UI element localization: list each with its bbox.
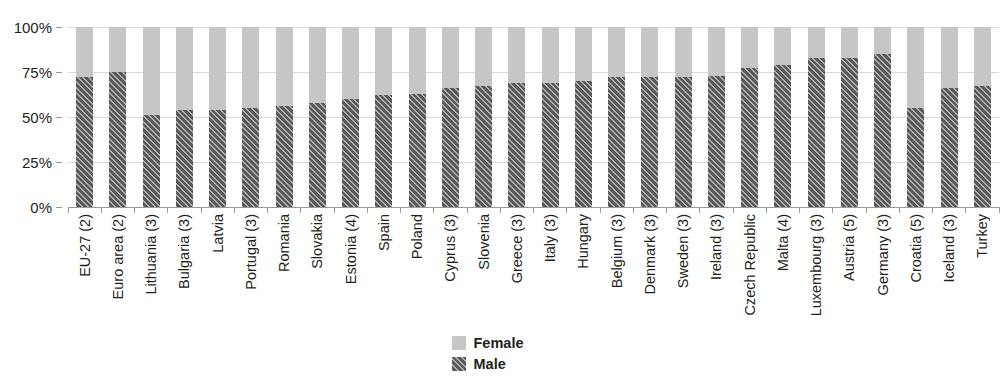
bar-stack[interactable]: [276, 27, 293, 207]
bar-segment-male[interactable]: [109, 72, 126, 207]
bar-segment-female[interactable]: [342, 27, 359, 99]
legend-item-female[interactable]: Female: [452, 336, 556, 351]
bar-segment-male[interactable]: [76, 77, 93, 207]
legend-item-male[interactable]: Male: [452, 357, 556, 372]
bar-segment-female[interactable]: [974, 27, 991, 86]
bar-segment-male[interactable]: [143, 115, 160, 207]
bar-segment-female[interactable]: [176, 27, 193, 110]
bar-segment-male[interactable]: [907, 108, 924, 207]
x-axis-tick-mark: [334, 207, 335, 213]
bar-segment-male[interactable]: [242, 108, 259, 207]
bar-stack[interactable]: [708, 27, 725, 207]
bar-segment-female[interactable]: [641, 27, 658, 77]
bar-segment-male[interactable]: [675, 77, 692, 207]
bar-segment-female[interactable]: [841, 27, 858, 58]
bar-segment-male[interactable]: [342, 99, 359, 207]
bar-segment-male[interactable]: [508, 83, 525, 207]
bar-segment-female[interactable]: [575, 27, 592, 81]
bar-segment-male[interactable]: [475, 86, 492, 207]
bar-segment-male[interactable]: [941, 88, 958, 207]
bar-stack[interactable]: [941, 27, 958, 207]
bar-segment-male[interactable]: [309, 103, 326, 207]
bar-segment-male[interactable]: [608, 77, 625, 207]
bar-stack[interactable]: [442, 27, 459, 207]
bar-stack[interactable]: [608, 27, 625, 207]
x-axis-category-label: Italy (3): [543, 214, 558, 262]
x-axis-tick-mark: [832, 207, 833, 213]
bar-stack[interactable]: [242, 27, 259, 207]
bar-segment-female[interactable]: [442, 27, 459, 88]
bar-stack[interactable]: [907, 27, 924, 207]
bar-stack[interactable]: [808, 27, 825, 207]
bar-segment-male[interactable]: [542, 83, 559, 207]
bar-slot: [367, 27, 400, 207]
bar-stack[interactable]: [974, 27, 991, 207]
bar-segment-male[interactable]: [841, 58, 858, 207]
bar-stack[interactable]: [375, 27, 392, 207]
bar-stack[interactable]: [508, 27, 525, 207]
bar-segment-male[interactable]: [641, 77, 658, 207]
bar-segment-male[interactable]: [808, 58, 825, 207]
bar-segment-female[interactable]: [774, 27, 791, 65]
bar-segment-female[interactable]: [475, 27, 492, 86]
bar-segment-female[interactable]: [375, 27, 392, 95]
bar-stack[interactable]: [575, 27, 592, 207]
bar-segment-female[interactable]: [708, 27, 725, 76]
bar-segment-male[interactable]: [176, 110, 193, 207]
x-axis-label-slot: Croatia (5): [899, 214, 932, 334]
bar-segment-male[interactable]: [974, 86, 991, 207]
bar-stack[interactable]: [675, 27, 692, 207]
bar-segment-female[interactable]: [276, 27, 293, 106]
bar-slot: [667, 27, 700, 207]
bar-stack[interactable]: [741, 27, 758, 207]
bar-segment-male[interactable]: [874, 54, 891, 207]
x-axis-category-label: Bulgaria (3): [177, 214, 192, 289]
bar-segment-female[interactable]: [907, 27, 924, 108]
bar-segment-female[interactable]: [608, 27, 625, 77]
x-axis-label-slot: Lithuania (3): [135, 214, 168, 334]
bar-segment-female[interactable]: [76, 27, 93, 77]
x-axis-label-slot: Luxembourg (3): [800, 214, 833, 334]
bar-segment-female[interactable]: [309, 27, 326, 103]
bar-stack[interactable]: [874, 27, 891, 207]
bar-segment-male[interactable]: [409, 94, 426, 207]
bar-stack[interactable]: [76, 27, 93, 207]
bar-segment-female[interactable]: [741, 27, 758, 68]
bar-segment-female[interactable]: [109, 27, 126, 72]
bar-stack[interactable]: [342, 27, 359, 207]
bar-segment-female[interactable]: [209, 27, 226, 110]
bar-slot: [866, 27, 899, 207]
bar-stack[interactable]: [542, 27, 559, 207]
bar-segment-male[interactable]: [575, 81, 592, 207]
bar-stack[interactable]: [176, 27, 193, 207]
bar-segment-female[interactable]: [409, 27, 426, 94]
bar-slot: [966, 27, 999, 207]
bar-segment-male[interactable]: [209, 110, 226, 207]
bar-segment-female[interactable]: [941, 27, 958, 88]
bar-segment-male[interactable]: [276, 106, 293, 207]
bar-segment-female[interactable]: [143, 27, 160, 115]
bar-segment-male[interactable]: [708, 76, 725, 207]
bar-segment-female[interactable]: [675, 27, 692, 77]
bar-segment-female[interactable]: [874, 27, 891, 54]
bar-stack[interactable]: [475, 27, 492, 207]
bar-segment-male[interactable]: [375, 95, 392, 207]
bar-stack[interactable]: [774, 27, 791, 207]
bar-segment-male[interactable]: [741, 68, 758, 207]
x-axis-label-slot: Italy (3): [534, 214, 567, 334]
x-axis-labels: EU-27 (2)Euro area (2)Lithuania (3)Bulga…: [68, 214, 999, 334]
bar-stack[interactable]: [641, 27, 658, 207]
bar-segment-female[interactable]: [542, 27, 559, 83]
x-axis-tick-slot: [401, 207, 434, 213]
bar-segment-female[interactable]: [808, 27, 825, 58]
bar-segment-male[interactable]: [442, 88, 459, 207]
bar-stack[interactable]: [109, 27, 126, 207]
bar-segment-female[interactable]: [508, 27, 525, 83]
bar-stack[interactable]: [841, 27, 858, 207]
bar-stack[interactable]: [409, 27, 426, 207]
bar-stack[interactable]: [209, 27, 226, 207]
bar-segment-female[interactable]: [242, 27, 259, 108]
bar-stack[interactable]: [309, 27, 326, 207]
bar-segment-male[interactable]: [774, 65, 791, 207]
bar-stack[interactable]: [143, 27, 160, 207]
